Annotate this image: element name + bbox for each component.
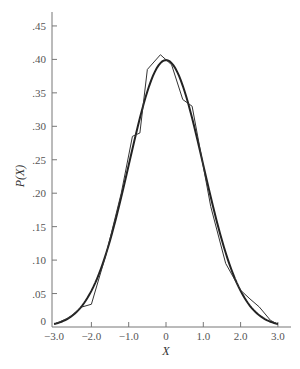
y-tick-label: .35 [32, 87, 46, 99]
frequency-polygon [54, 55, 278, 325]
x-tick-label: −3.0 [44, 330, 64, 342]
y-tick-label: .15 [32, 221, 46, 233]
y-tick-label: .25 [32, 154, 46, 166]
y-tick-label: .20 [32, 187, 46, 199]
y-axis-ticks: 0.05.10.15.20.25.30.35.40.45 [32, 20, 57, 327]
x-tick-label: 2.0 [234, 330, 248, 342]
y-tick-label: 0 [41, 315, 47, 327]
y-axis-title: P(X) [13, 165, 27, 189]
y-tick-label: .05 [32, 288, 46, 300]
x-tick-label: −2.0 [81, 330, 101, 342]
y-tick-label: .10 [32, 254, 46, 266]
y-tick-label: .45 [32, 20, 46, 32]
y-tick-label: .40 [32, 53, 46, 65]
x-tick-label: 0 [163, 330, 169, 342]
x-tick-label: −1.0 [119, 330, 139, 342]
x-tick-label: 3.0 [271, 330, 285, 342]
x-axis-ticks: −3.0−2.0−1.001.02.03.0 [44, 322, 285, 342]
y-tick-label: .30 [32, 120, 46, 132]
normal-curve [54, 60, 278, 324]
axes [52, 12, 291, 327]
x-tick-label: 1.0 [196, 330, 210, 342]
normal-distribution-chart: 0.05.10.15.20.25.30.35.40.45 −3.0−2.0−1.… [0, 0, 300, 369]
x-axis-title: X [161, 344, 170, 358]
